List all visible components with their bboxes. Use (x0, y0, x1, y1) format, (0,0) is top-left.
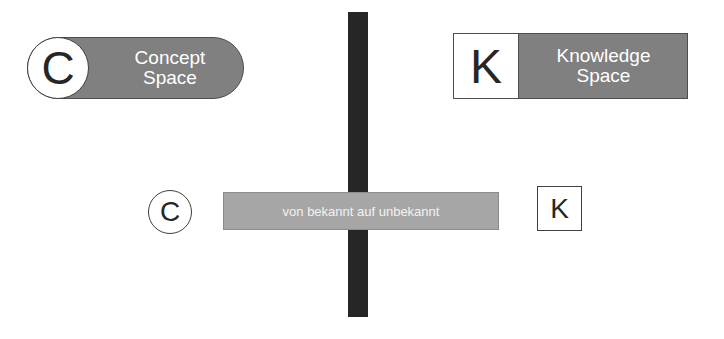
transition-bar: von bekannt auf unbekannt (223, 192, 499, 230)
small-concept-circle: C (148, 190, 192, 234)
concept-space-label-line2: Space (143, 68, 197, 88)
concept-space-label: Concept Space (100, 37, 240, 99)
vertical-divider-bar (348, 12, 368, 317)
knowledge-space-letter: K (453, 33, 519, 99)
knowledge-space-label-line1: Knowledge (556, 46, 650, 66)
knowledge-space-label: Knowledge Space (519, 33, 688, 99)
knowledge-space-label-line2: Space (577, 66, 631, 86)
concept-space-letter: C (27, 37, 89, 99)
small-knowledge-box: K (537, 186, 582, 231)
concept-space-label-line1: Concept (135, 48, 206, 68)
